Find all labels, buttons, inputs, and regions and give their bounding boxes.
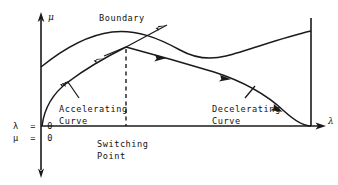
lambda-axis-symbol: λ bbox=[327, 116, 334, 126]
accelerating-curve bbox=[42, 47, 126, 126]
axes-group bbox=[38, 12, 326, 178]
flow-arrow-group bbox=[60, 26, 283, 112]
decelerating-curve bbox=[126, 47, 311, 126]
accelerating-curve-overshoot bbox=[126, 25, 167, 47]
decelerating-curve-label-line1: Decelerating bbox=[212, 104, 281, 114]
origin-mu-zero-label: μ = 0 bbox=[13, 133, 53, 143]
accelerating-curve-label-line2: Curve bbox=[59, 116, 88, 126]
accelerating-curve-label-line1: Accelerating bbox=[59, 104, 128, 114]
decelerating-curve-label-line2: Curve bbox=[212, 116, 241, 126]
switching-point-label-line1: Switching bbox=[97, 139, 149, 149]
accelerating-leader-line bbox=[68, 82, 79, 98]
decelerating-curve-backstub bbox=[104, 47, 126, 56]
figure-page: Boundary Accelerating Curve Decelerating… bbox=[0, 0, 338, 185]
mu-axis-symbol: μ bbox=[48, 12, 54, 22]
switching-point-label-line2: Point bbox=[97, 151, 126, 161]
phase-plane-diagram: Boundary Accelerating Curve Decelerating… bbox=[0, 0, 338, 185]
origin-lambda-zero-label: λ = 0 bbox=[13, 121, 53, 131]
boundary-label: Boundary bbox=[99, 13, 145, 23]
